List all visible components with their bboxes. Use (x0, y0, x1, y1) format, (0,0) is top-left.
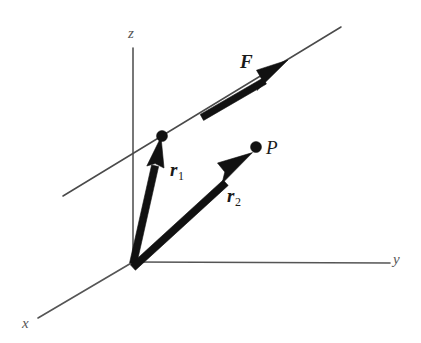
y-axis-line (133, 262, 390, 263)
line-of-action (63, 27, 341, 196)
position-vector-r2-subscript: 2 (234, 195, 241, 209)
vector-diagram-figure: z y x F r1 r2 P (0, 0, 421, 343)
x-axis-label: x (22, 316, 29, 331)
position-vector-r2-label: r2 (227, 186, 241, 208)
point-P-label: P (266, 138, 278, 157)
z-axis-label: z (128, 26, 134, 41)
diagram-canvas (0, 0, 421, 343)
axes-group (38, 48, 390, 318)
force-vector-F-head (257, 60, 289, 91)
point-on-line-dot (157, 131, 168, 142)
position-vector-r1-label: r1 (170, 160, 184, 182)
y-axis-label: y (393, 252, 400, 267)
point-P-dot (251, 142, 262, 153)
position-vector-r2-head (218, 153, 253, 184)
force-vector-F-shaft (200, 78, 266, 120)
force-vector-F-label-text: F (240, 51, 253, 72)
position-vector-r1-subscript: 1 (177, 169, 184, 183)
x-axis-line (38, 262, 133, 318)
force-vector-F-label: F (240, 52, 253, 71)
